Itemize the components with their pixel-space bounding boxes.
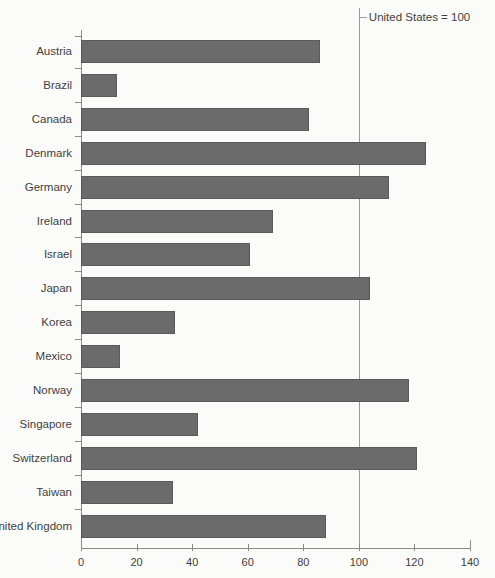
x-axis-tick-label: 140	[461, 556, 479, 568]
category-label: Taiwan	[36, 481, 72, 504]
category-label: Norway	[33, 379, 72, 402]
x-axis-tick-label: 120	[405, 556, 423, 568]
category-label: Germany	[25, 176, 72, 199]
y-axis-tick	[75, 373, 82, 374]
y-axis-tick	[75, 339, 82, 340]
y-axis-tick	[75, 170, 82, 171]
x-axis-tick	[303, 544, 304, 551]
y-axis-tick	[75, 204, 82, 205]
x-axis-tick	[414, 544, 415, 551]
bar	[81, 481, 173, 504]
category-label: Israel	[44, 243, 72, 266]
category-label: Korea	[41, 311, 72, 334]
x-axis-tick	[137, 544, 138, 551]
y-axis-tick	[75, 237, 82, 238]
bar-chart: United States = 100 AustriaBrazilCanadaD…	[0, 0, 495, 578]
bar	[81, 515, 326, 538]
reference-line-leader	[359, 17, 367, 18]
category-label: Japan	[41, 277, 72, 300]
y-axis-tick	[75, 509, 82, 510]
category-label: Denmark	[25, 142, 72, 165]
bar	[81, 311, 175, 334]
x-axis-tick-label: 100	[350, 556, 368, 568]
y-axis-tick	[75, 136, 82, 137]
x-axis-tick-label: 60	[242, 556, 254, 568]
category-label: Brazil	[43, 74, 72, 97]
x-axis-tick	[81, 544, 82, 551]
bar	[81, 277, 370, 300]
bar	[81, 142, 426, 165]
y-axis-tick	[75, 68, 82, 69]
category-label: Ireland	[37, 210, 72, 233]
x-axis-tick	[470, 544, 471, 551]
y-axis-tick	[75, 102, 82, 103]
x-axis	[81, 548, 470, 549]
x-axis-tick-label: 40	[186, 556, 198, 568]
category-label: United Kingdom	[0, 515, 72, 538]
bar	[81, 40, 320, 63]
y-axis-tick	[75, 441, 82, 442]
y-axis-tick	[75, 36, 82, 37]
category-label: Singapore	[20, 413, 72, 436]
bar	[81, 74, 117, 97]
category-label: Austria	[36, 40, 72, 63]
bar	[81, 108, 309, 131]
bar	[81, 413, 198, 436]
x-axis-tick-label: 20	[130, 556, 142, 568]
bar	[81, 210, 273, 233]
x-axis-tick	[359, 544, 360, 551]
category-label: Switzerland	[13, 447, 72, 470]
reference-line-label: United States = 100	[369, 11, 470, 23]
bar	[81, 243, 250, 266]
x-axis-tick-label: 80	[297, 556, 309, 568]
y-axis-tick	[75, 407, 82, 408]
x-axis-tick-label: 0	[78, 556, 84, 568]
x-axis-tick	[192, 544, 193, 551]
bar	[81, 447, 417, 470]
bar	[81, 176, 389, 199]
x-axis-tick	[248, 544, 249, 551]
category-label: Canada	[32, 108, 72, 131]
bar	[81, 345, 120, 368]
y-axis-tick	[75, 475, 82, 476]
y-axis-tick	[75, 271, 82, 272]
y-axis-tick	[75, 305, 82, 306]
category-label: Mexico	[36, 345, 72, 368]
bar	[81, 379, 409, 402]
